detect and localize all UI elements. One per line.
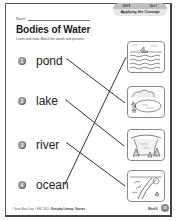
line-river-to-picture-4 xyxy=(67,143,125,186)
line-pond-to-picture-2 xyxy=(67,59,125,103)
footer-copyright: © Evan-Moor Corp. • EMC 3031 • Everyday … xyxy=(12,208,85,211)
page-number-badge: 31 xyxy=(161,204,169,212)
line-ocean-to-picture-1 xyxy=(65,57,126,184)
week-label: Week 8 xyxy=(148,207,158,211)
matching-lines xyxy=(0,0,178,221)
copyright-text: © Evan-Moor Corp. • EMC 3031 • xyxy=(12,208,51,211)
line-lake-to-picture-3 xyxy=(66,100,124,146)
book-title: Everyday Literacy: Science xyxy=(51,208,85,211)
